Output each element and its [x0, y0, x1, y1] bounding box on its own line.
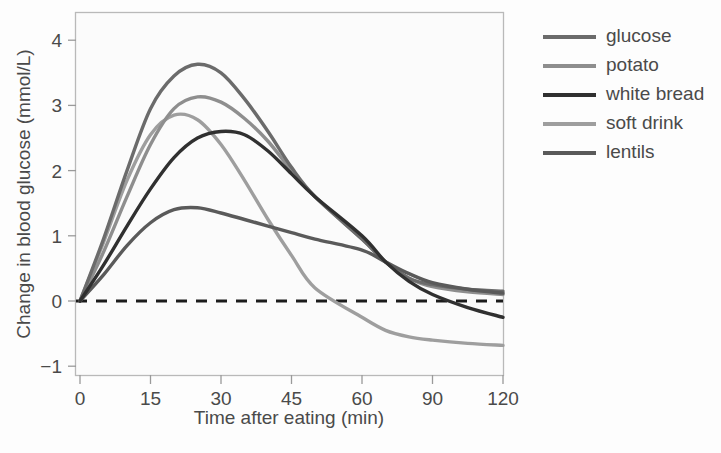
chart-canvas: −101234 01530456090120 Time after eating… — [0, 0, 721, 453]
chart-figure: −101234 01530456090120 Time after eating… — [0, 0, 721, 453]
legend-label-glucose: glucose — [606, 25, 672, 46]
x-tick-label: 90 — [422, 388, 443, 409]
x-tick-label: 0 — [75, 388, 86, 409]
y-tick-label: 3 — [51, 95, 62, 116]
x-tick-label: 60 — [351, 388, 372, 409]
y-tick-label: −1 — [40, 356, 62, 377]
x-axis-title: Time after eating (min) — [194, 407, 384, 428]
y-tick-label: 1 — [51, 226, 62, 247]
x-tick-label: 15 — [140, 388, 161, 409]
plot-area-frame — [76, 13, 504, 376]
x-tick-label: 30 — [210, 388, 231, 409]
x-tick-label: 45 — [281, 388, 302, 409]
x-tick-label: 120 — [487, 388, 519, 409]
legend-label-potato: potato — [606, 54, 659, 75]
legend-label-lentils: lentils — [606, 141, 655, 162]
legend-label-white-bread: white bread — [605, 83, 704, 104]
y-tick-label: 2 — [51, 161, 62, 182]
y-axis-title: Change in blood glucose (mmol/L) — [13, 49, 34, 338]
legend-label-soft-drink: soft drink — [606, 112, 684, 133]
y-tick-label: 0 — [51, 291, 62, 312]
y-tick-label: 4 — [51, 30, 62, 51]
